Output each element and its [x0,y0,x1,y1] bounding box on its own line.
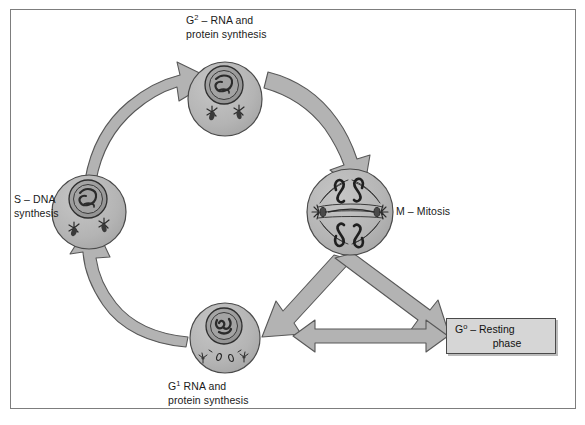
g0-resting-phase-label: Go – Restingphase [450,323,554,350]
label-g2-line2: protein synthesis [186,28,267,40]
cell-s-icon [52,175,126,249]
cell-cycle-diagram-graphic [0,0,585,425]
label-m-phase: M – Mitosis [396,205,450,219]
label-s-line1: S – DNA [14,193,56,205]
arrow-m-to-g1-icon [262,255,352,337]
label-m-line1: M – Mitosis [396,205,450,217]
label-s-line2: synthesis [14,207,59,219]
g0-line2: phase [450,337,554,351]
cell-g2-icon [188,62,262,136]
label-s-phase: S – DNAsynthesis [14,193,59,220]
label-g1-phase: G1 RNA andprotein synthesis [168,380,249,407]
label-g1-line2: protein synthesis [168,394,249,406]
label-g2-phase: G2 – RNA andprotein synthesis [186,14,267,41]
cell-m-icon [307,169,393,255]
g0-line1: Go – Resting [450,323,554,337]
label-g1-line1: G1 RNA and [168,380,226,392]
label-g2-line1: G2 – RNA and [186,14,253,26]
cell-cycle-figure: G2 – RNA andprotein synthesis S – DNAsyn… [0,0,585,425]
cell-g1-icon [190,303,260,373]
